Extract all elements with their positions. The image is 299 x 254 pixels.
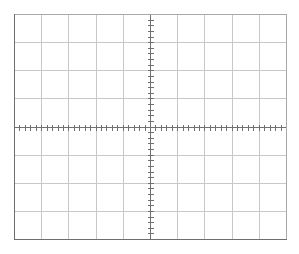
oscilloscope-graticule	[0, 0, 299, 254]
